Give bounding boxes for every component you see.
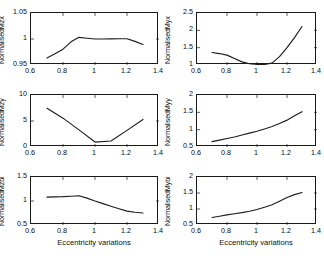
x-tick-label: 0.8: [214, 66, 238, 75]
x-axis-label-mybi: Eccentricity variations: [186, 238, 324, 247]
plot-area-mzy: [30, 94, 158, 146]
x-tick-label: 0.8: [50, 66, 74, 75]
y-tick-label: 1.5: [169, 106, 193, 115]
x-tick-label: 1: [244, 148, 268, 157]
x-tick-label: 0.6: [18, 148, 42, 157]
data-curve-mzbi: [47, 196, 143, 213]
data-curve-mzy: [47, 108, 143, 142]
y-tick-label: 1.5: [3, 171, 27, 180]
x-tick-label: 1: [82, 226, 106, 235]
figure-canvas: 0.9511.050.60.811.21.4NormalisedMzx11.52…: [0, 0, 324, 260]
x-tick-label: 1: [244, 66, 268, 75]
y-axis-label-myy: NormalisedMyy: [163, 98, 172, 146]
data-curve-mybi: [212, 193, 302, 218]
x-tick-label: 1.4: [146, 148, 170, 157]
y-tick-label: 1: [169, 203, 193, 212]
data-curve-mzx: [47, 37, 143, 58]
x-tick-label: 1: [82, 66, 106, 75]
y-tick-label: 2: [169, 171, 193, 180]
x-tick-label: 0.8: [214, 148, 238, 157]
y-tick-label: 1: [3, 195, 27, 204]
x-tick-label: 1.4: [304, 66, 324, 75]
plot-area-myx: [196, 12, 316, 64]
y-tick-label: 2: [169, 89, 193, 98]
y-tick-label: 2.5: [169, 7, 193, 16]
x-tick-label: 0.8: [50, 226, 74, 235]
x-tick-label: 0.6: [184, 148, 208, 157]
x-tick-label: 1: [82, 148, 106, 157]
x-tick-label: 0.6: [184, 226, 208, 235]
y-axis-label-mzx: NormalisedMzx: [0, 16, 6, 64]
y-tick-label: 1: [3, 33, 27, 42]
data-curve-myx: [212, 27, 302, 65]
x-tick-label: 1.4: [304, 226, 324, 235]
y-tick-label: 1: [169, 124, 193, 133]
data-curve-myy: [212, 112, 302, 142]
plot-area-mzbi: [30, 176, 158, 224]
y-tick-label: 2: [169, 24, 193, 33]
y-axis-label-mzy: NormalisedMzy: [0, 98, 6, 146]
y-tick-label: 5: [3, 115, 27, 124]
y-axis-label-mzbi: NormalisedMzbi: [0, 177, 6, 226]
x-tick-label: 1.4: [146, 66, 170, 75]
x-tick-label: 0.6: [184, 66, 208, 75]
x-tick-label: 1.2: [114, 66, 138, 75]
plot-svg-mzbi: [31, 177, 159, 225]
y-tick-label: 1.05: [3, 7, 27, 16]
plot-svg-mzy: [31, 95, 159, 147]
plot-area-mybi: [196, 176, 316, 224]
plot-svg-mzx: [31, 13, 159, 65]
plot-svg-myy: [197, 95, 317, 147]
x-tick-label: 0.8: [50, 148, 74, 157]
x-tick-label: 1.2: [274, 66, 298, 75]
x-tick-label: 1.4: [146, 226, 170, 235]
y-tick-label: 1.5: [169, 42, 193, 51]
x-tick-label: 0.6: [18, 226, 42, 235]
plot-svg-mybi: [197, 177, 317, 225]
y-tick-label: 10: [3, 89, 27, 98]
x-tick-label: 1: [244, 226, 268, 235]
x-tick-label: 1.2: [274, 148, 298, 157]
plot-area-mzx: [30, 12, 158, 64]
x-tick-label: 1.2: [274, 226, 298, 235]
x-tick-label: 0.8: [214, 226, 238, 235]
x-axis-label-mzbi: Eccentricity variations: [20, 238, 168, 247]
y-axis-label-mybi: NormalisedMybi: [163, 177, 172, 226]
y-tick-label: 1.5: [169, 187, 193, 196]
y-axis-label-myx: NormalisedMyx: [163, 16, 172, 64]
plot-svg-myx: [197, 13, 317, 65]
x-tick-label: 0.6: [18, 66, 42, 75]
x-tick-label: 1.4: [304, 148, 324, 157]
x-tick-label: 1.2: [114, 226, 138, 235]
plot-area-myy: [196, 94, 316, 146]
x-tick-label: 1.2: [114, 148, 138, 157]
